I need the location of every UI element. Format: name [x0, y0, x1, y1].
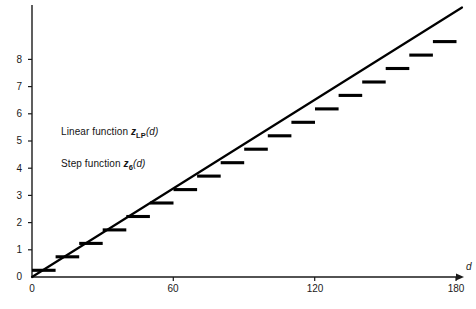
step-function-argument: (d): [133, 158, 146, 169]
chart-figure: 0 1 2 3 4 5 6 7 8 0 60 120 180 d Linear …: [0, 0, 476, 309]
x-tick-label-180: 180: [441, 283, 471, 294]
y-tick-label-5: 5: [8, 135, 22, 146]
plot-area: [0, 0, 476, 309]
x-tick-label-0: 0: [17, 283, 47, 294]
linear-function-argument: (d): [146, 126, 159, 137]
linear-function-subscript: LP: [136, 131, 146, 140]
linear-function-label-prefix: Linear function: [61, 126, 131, 137]
y-tick-label-8: 8: [8, 54, 22, 65]
x-tick-label-60: 60: [158, 283, 188, 294]
linear-function-curve: [32, 8, 462, 278]
y-tick-label-2: 2: [8, 217, 22, 228]
y-tick-label-6: 6: [8, 108, 22, 119]
y-tick-label-7: 7: [8, 81, 22, 92]
y-tick-label-0: 0: [8, 271, 22, 282]
linear-function-label: Linear function zLP(d): [61, 126, 158, 140]
y-tick-label-3: 3: [8, 190, 22, 201]
x-tick-label-120: 120: [300, 283, 330, 294]
step-function-label: Step function z6(d): [61, 158, 145, 172]
y-tick-label-1: 1: [8, 244, 22, 255]
step-function-label-prefix: Step function: [61, 158, 124, 169]
x-axis-arrow-icon: [456, 273, 464, 280]
x-axis-label: d: [466, 261, 472, 272]
y-tick-label-4: 4: [8, 163, 22, 174]
